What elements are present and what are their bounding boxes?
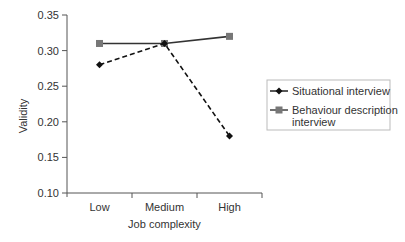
legend-label: Situational interview	[292, 85, 390, 97]
legend-label: Behaviour description	[292, 104, 398, 116]
data-point	[96, 40, 103, 47]
series-situational-interview	[96, 40, 233, 140]
series-layer	[96, 33, 233, 140]
series-line	[100, 43, 230, 136]
y-tick-label: 0.20	[38, 116, 59, 128]
data-point	[226, 33, 233, 40]
x-axis-title: Job complexity	[128, 218, 201, 230]
axes: 0.100.150.200.250.300.35LowMediumHighJob…	[17, 9, 262, 230]
y-tick-label: 0.30	[38, 45, 59, 57]
line-chart: 0.100.150.200.250.300.35LowMediumHighJob…	[0, 0, 405, 242]
x-tick-label: High	[218, 201, 241, 213]
legend-marker	[276, 107, 283, 114]
y-axis-title: Validity	[17, 98, 29, 133]
x-tick-label: Low	[89, 201, 109, 213]
y-tick-label: 0.15	[38, 151, 59, 163]
legend: Situational interviewBehaviour descripti…	[267, 80, 398, 130]
y-tick-label: 0.10	[38, 187, 59, 199]
x-tick-label: Medium	[145, 201, 184, 213]
y-tick-label: 0.25	[38, 80, 59, 92]
data-point	[96, 61, 103, 68]
y-tick-label: 0.35	[38, 9, 59, 21]
legend-label: interview	[292, 116, 335, 128]
